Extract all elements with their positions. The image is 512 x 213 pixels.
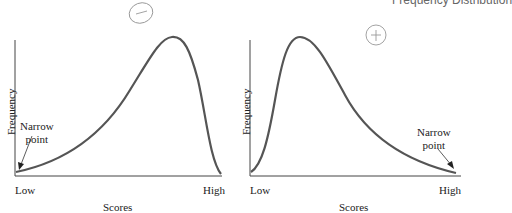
chart-negatively-skewed [15, 37, 222, 176]
callout-line-2: point [20, 133, 54, 146]
positive-mark-icon [366, 25, 386, 45]
narrow-point-label: Narrow point [417, 126, 451, 152]
callout-line-2: point [417, 139, 451, 152]
y-axis-label: Frequency [240, 89, 252, 135]
arrowhead-icon [18, 162, 24, 170]
x-tick-high: High [203, 184, 225, 196]
distribution-curve [16, 37, 221, 174]
chart-positively-skewed [250, 37, 461, 176]
y-axis-label: Frequency [5, 89, 17, 135]
distribution-curve [251, 37, 456, 173]
callout-line-1: Narrow [20, 120, 54, 133]
callout-line-1: Narrow [417, 126, 451, 139]
x-tick-low: Low [15, 184, 35, 196]
x-axis-label: Scores [339, 201, 368, 213]
x-tick-low: Low [250, 184, 270, 196]
x-axis-label: Scores [103, 201, 132, 213]
arrowhead-icon [447, 161, 454, 169]
negative-mark-icon [126, 0, 155, 27]
x-tick-high: High [439, 184, 461, 196]
narrow-point-label: Narrow point [20, 120, 54, 146]
